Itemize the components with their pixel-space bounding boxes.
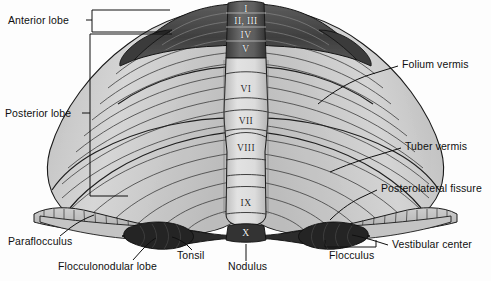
- label-anterior-lobe: Anterior lobe: [8, 15, 69, 26]
- label-nodulus: Nodulus: [228, 261, 267, 272]
- label-flocculonodular-lobe: Flocculonodular lobe: [58, 261, 157, 272]
- vermis-lobule-IX: IX: [232, 198, 260, 208]
- label-posterior-lobe: Posterior lobe: [5, 108, 71, 119]
- vermis-lobule-VI: VI: [232, 84, 260, 94]
- label-tuber-vermis: Tuber vermis: [405, 141, 467, 152]
- label-paraflocculus: Paraflocculus: [8, 236, 72, 247]
- vermis-lobule-VIII: VIII: [229, 143, 263, 153]
- label-folium-vermis: Folium vermis: [402, 59, 469, 70]
- label-vestibular-center: Vestibular center: [392, 239, 472, 250]
- vermis-lobule-VII: VII: [230, 116, 262, 126]
- vermis-lobule-IV: IV: [232, 30, 260, 40]
- vermis-lobule-X: X: [232, 228, 260, 238]
- label-posterolateral-fissure: Posterolateral fissure: [381, 183, 482, 194]
- vermis-lobule-I: I: [232, 4, 260, 14]
- label-flocculus: Flocculus: [329, 250, 374, 261]
- vermis-lobule-II-III: II, III: [228, 16, 264, 26]
- figure-canvas: Anterior lobe Posterior lobe Folium verm…: [0, 0, 491, 281]
- vermis-lobule-V: V: [232, 44, 260, 54]
- label-tonsil: Tonsil: [177, 250, 204, 261]
